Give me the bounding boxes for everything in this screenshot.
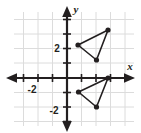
x-tick-label-negative-2: -2 xyxy=(28,84,37,95)
x-axis-name-label: x xyxy=(126,60,133,72)
vertex-point xyxy=(76,89,81,94)
vertex-point xyxy=(94,57,99,62)
vertex-point xyxy=(94,104,99,109)
x-axis-arrow-left-icon xyxy=(6,73,17,83)
x-axis xyxy=(6,73,135,83)
y-axis-arrow-down-icon xyxy=(62,121,72,132)
y-axis-name-label: y xyxy=(72,3,79,15)
vertex-point xyxy=(105,75,110,80)
upper-triangle xyxy=(75,27,110,62)
y-tick-label-2: 2 xyxy=(54,43,60,54)
vertex-point xyxy=(75,42,80,47)
graph-svg: -2 2 -2 y x xyxy=(0,0,141,133)
grid-lines xyxy=(14,12,134,126)
vertex-point xyxy=(105,27,110,32)
x-axis-arrow-right-icon xyxy=(124,73,135,83)
y-tick-label-negative-2: -2 xyxy=(50,105,59,116)
y-axis-arrow-up-icon xyxy=(62,6,72,17)
coordinate-plane-figure: -2 2 -2 y x xyxy=(0,0,141,133)
y-axis xyxy=(62,6,72,132)
